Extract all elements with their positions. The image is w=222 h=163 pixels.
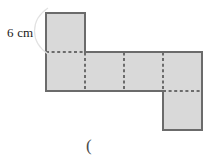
row-face-2 [85, 52, 124, 91]
trailing-parenthesis-mark: ( [86, 137, 92, 154]
top-face [46, 13, 85, 52]
row-face-1 [46, 52, 85, 91]
row-face-3 [124, 52, 163, 91]
bottom-face [163, 91, 202, 130]
cube-net-svg [0, 0, 222, 163]
edge-length-label: 6 cm [7, 26, 33, 39]
cube-net-figure: 6 cm ( [0, 0, 222, 163]
row-face-4 [163, 52, 202, 91]
